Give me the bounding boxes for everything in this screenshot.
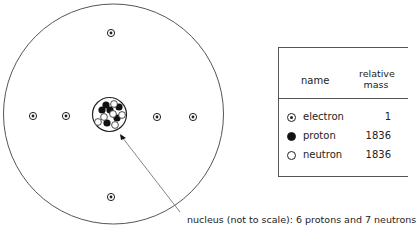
table-row: electron 1 [279,110,399,126]
electron-icon [153,113,160,120]
nucleus-caption: nucleus (not to scale): 6 protons and 7 … [187,214,416,225]
nucleus [93,98,127,132]
electron-icon [62,112,69,119]
header-name: name [301,75,329,86]
electron-icon [29,112,36,119]
nucleus-pointer-arrow [120,134,180,212]
electron-icon [107,29,114,36]
table-row: neutron 1836 [279,148,399,164]
particle-mass-table: name relative mass electron 1 proton 183… [278,47,408,177]
header-relative-mass: relative mass [359,68,393,90]
electron-icon [107,193,114,200]
table-header: name relative mass [279,48,408,99]
electron-icon [287,113,296,122]
electron-icon [189,113,196,120]
table-row: proton 1836 [279,129,399,145]
proton-icon [287,132,296,141]
neutron-icon [287,151,296,160]
